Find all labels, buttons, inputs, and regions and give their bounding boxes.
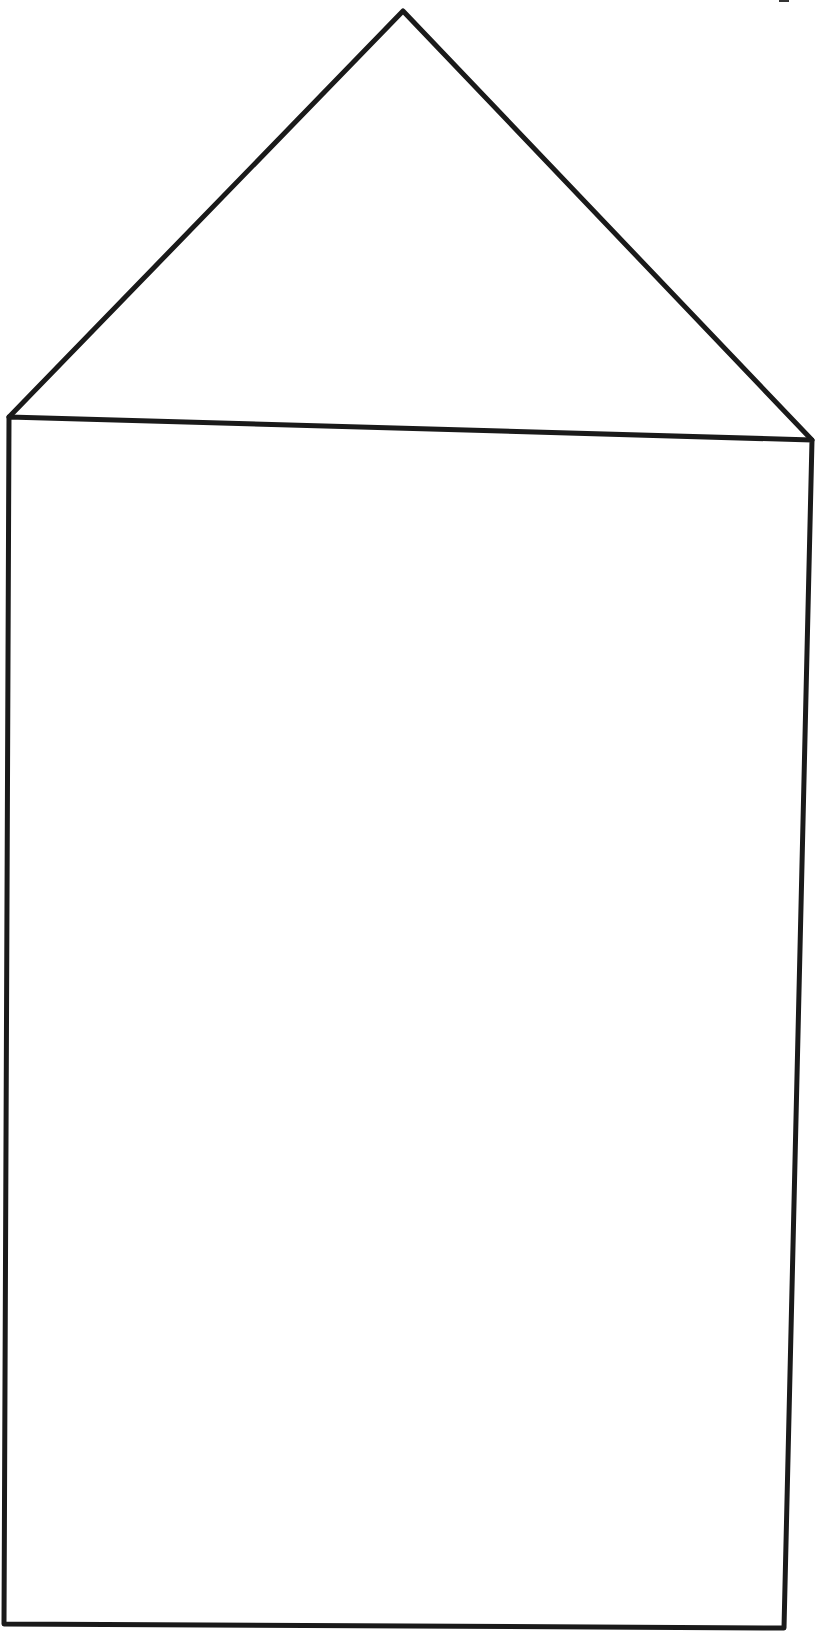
roof-outline <box>9 11 812 440</box>
house-outline-drawing <box>0 0 816 1637</box>
corner-mark <box>779 0 789 2</box>
body-outline <box>4 417 812 1628</box>
